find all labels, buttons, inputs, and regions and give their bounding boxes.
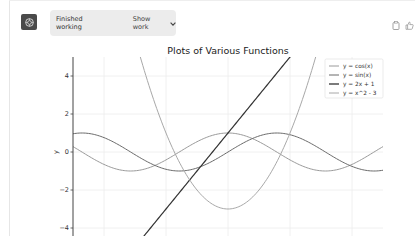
- legend-label: y = cos(x): [343, 63, 373, 70]
- chart-title: Plots of Various Functions: [167, 45, 288, 56]
- y-tick-label: 0: [65, 148, 69, 156]
- function-plot: 420−2−4 y Plots of Various Functions y =…: [0, 0, 415, 236]
- legend-label: y = 2x + 1: [343, 81, 375, 88]
- y-tick-label: −4: [59, 224, 69, 232]
- y-tick-label: 4: [65, 72, 69, 80]
- legend-label: y = sin(x): [343, 72, 371, 79]
- y-tick-label: 2: [65, 110, 69, 118]
- y-tick-label: −2: [59, 186, 69, 194]
- y-axis-label: y: [52, 150, 60, 154]
- y-axis-ticks: 420−2−4: [59, 72, 73, 232]
- chart-legend: y = cos(x)y = sin(x)y = 2x + 1y = x^2 - …: [325, 59, 383, 98]
- legend-label: y = x^2 - 3: [343, 90, 377, 97]
